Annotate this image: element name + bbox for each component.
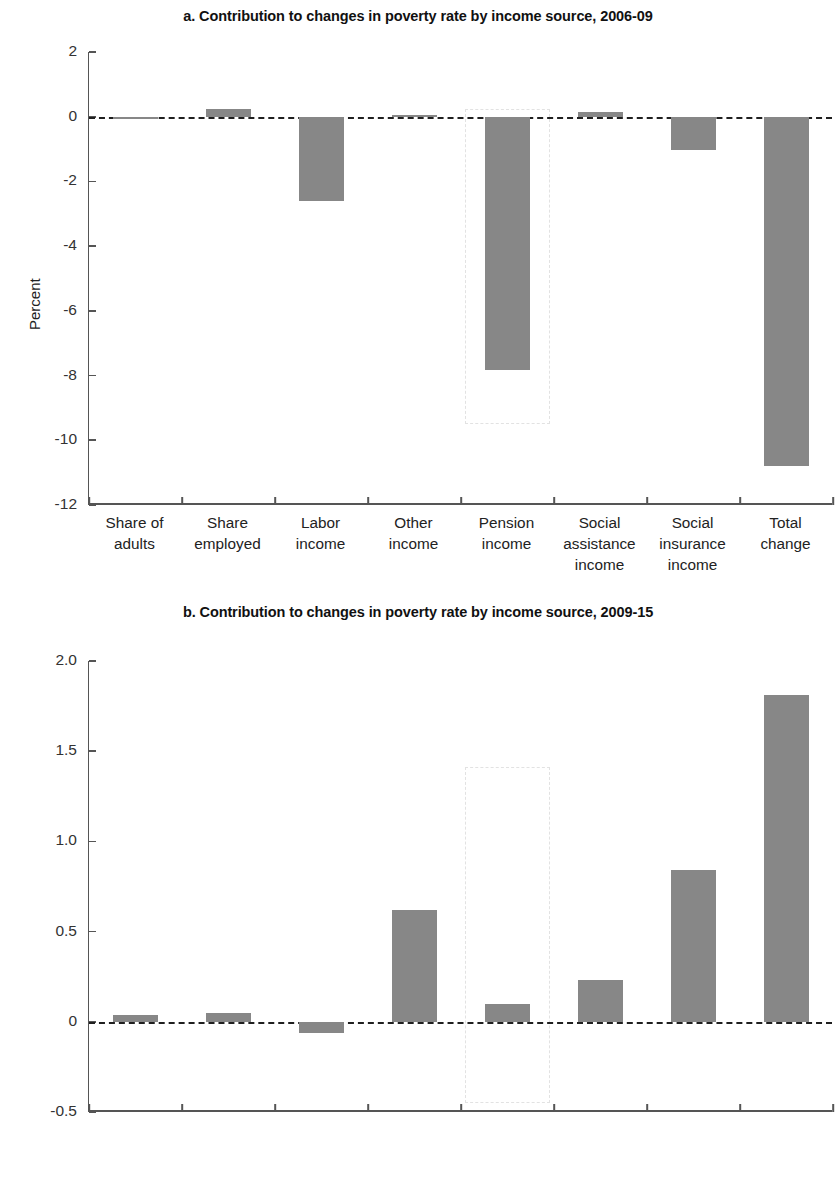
bar [392,910,437,1022]
y-tick-mark [89,660,96,662]
y-tick-mark [89,439,96,441]
bar [392,115,437,117]
y-tick-label: 1.5 [55,741,77,759]
x-tick-mark [460,1104,462,1112]
y-tick-label: -10 [55,430,77,448]
x-axis-category-label: Socialinsuranceincome [646,512,739,575]
panel-a-title: a. Contribution to changes in poverty ra… [0,8,836,24]
y-tick-mark [89,750,96,752]
x-tick-mark [181,1104,183,1112]
zero-reference-line [89,1022,832,1024]
x-tick-mark [367,497,369,505]
y-tick-mark [89,245,96,247]
y-tick-mark [89,310,96,312]
y-tick-label: -6 [63,301,77,319]
x-tick-mark [739,1104,741,1112]
y-tick-label: -4 [63,236,77,254]
x-tick-mark [739,497,741,505]
x-axis-category-label: Laborincome [274,512,367,575]
x-axis-category-label: Otherincome [367,512,460,575]
bar [485,1004,530,1022]
bar [671,117,716,150]
y-tick-label: -2 [63,171,77,189]
panel-a-x-tick-labels: Share ofadultsShareemployedLaborincomeOt… [88,512,832,575]
chart-panel-b: b. Contribution to changes in poverty ra… [0,596,836,1192]
x-tick-mark [832,497,834,505]
y-tick-mark [89,375,96,377]
y-tick-label: 0.5 [55,922,77,940]
x-tick-mark [274,497,276,505]
x-tick-mark [460,497,462,505]
y-tick-mark [89,181,96,183]
y-tick-mark [89,51,96,53]
x-axis-category-label: Pensionincome [460,512,553,575]
bar [206,109,251,117]
y-tick-mark [89,504,96,506]
bar [671,870,716,1022]
bar [113,1015,158,1022]
panel-b-title: b. Contribution to changes in poverty ra… [0,604,836,620]
x-tick-mark [646,1104,648,1112]
bar [764,695,809,1022]
y-tick-label: 2 [68,42,77,60]
bar [113,117,158,120]
bar [764,117,809,466]
x-axis-category-label: Shareemployed [181,512,274,575]
x-tick-mark [646,497,648,505]
x-tick-mark [274,1104,276,1112]
bar [299,117,344,201]
x-tick-mark [553,497,555,505]
bar [299,1022,344,1033]
x-tick-mark [88,1104,90,1112]
y-tick-mark [89,841,96,843]
bar [578,112,623,117]
pension-income-highlight-box [465,767,550,1103]
y-tick-label: -12 [55,495,77,513]
bar [578,980,623,1021]
y-tick-mark [89,1111,96,1113]
y-tick-mark [89,931,96,933]
panel-b-plot-area: 2.01.51.00.50-0.5 [88,661,832,1112]
x-tick-mark [88,497,90,505]
panel-a-plot-area: 20-2-4-6-8-10-12 [88,52,832,505]
x-axis-category-label: Share ofadults [88,512,181,575]
x-tick-mark [181,497,183,505]
bar [485,117,530,370]
chart-panel-a: a. Contribution to changes in poverty ra… [0,0,836,596]
panel-a-y-axis-label: Percent [26,278,43,330]
y-tick-label: 2.0 [55,651,77,669]
x-axis-category-label: Totalchange [739,512,832,575]
x-axis-category-label: Socialassistanceincome [553,512,646,575]
y-tick-label: -8 [63,366,77,384]
bar [206,1013,251,1022]
y-tick-label: 1.0 [55,831,77,849]
y-tick-label: -0.5 [50,1102,77,1120]
y-tick-label: 0 [68,107,77,125]
x-tick-mark [553,1104,555,1112]
figure-page: a. Contribution to changes in poverty ra… [0,0,836,1192]
zero-reference-line [89,117,832,119]
x-tick-mark [832,1104,834,1112]
y-tick-label: 0 [68,1012,77,1030]
x-tick-mark [367,1104,369,1112]
